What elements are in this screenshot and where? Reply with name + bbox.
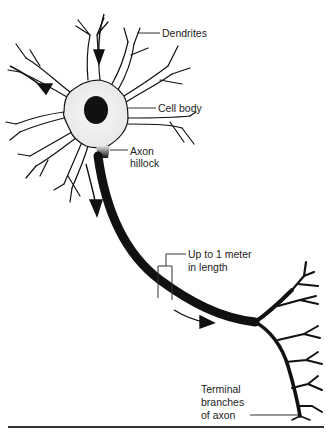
neuron-diagram xyxy=(0,0,328,439)
label-cell-body: Cell body xyxy=(158,102,202,114)
label-terminal-2: branches xyxy=(201,396,244,408)
label-terminal-1: Terminal xyxy=(201,383,241,395)
signal-arrows xyxy=(10,14,214,328)
label-length-2: in length xyxy=(188,261,228,273)
terminal-branches xyxy=(255,262,322,420)
label-axon-hillock-1: Axon xyxy=(130,145,154,157)
label-length-1: Up to 1 meter xyxy=(188,248,252,260)
nucleus xyxy=(84,96,108,124)
label-terminal-3: of axon xyxy=(201,409,235,421)
leader-lines xyxy=(110,33,298,415)
label-dendrites: Dendrites xyxy=(162,27,207,39)
bottom-rule xyxy=(8,426,324,428)
axon xyxy=(98,156,255,322)
label-axon-hillock-2: hillock xyxy=(130,157,159,169)
